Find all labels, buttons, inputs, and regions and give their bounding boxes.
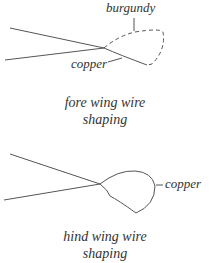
hind-wing-wire-upper: [10, 154, 100, 184]
hind-wing-caption: hind wing wire shaping: [30, 228, 180, 262]
copper-label-hind: copper: [165, 176, 201, 192]
caption-line: fore wing wire: [30, 94, 180, 111]
copper-leader-fore: [108, 58, 122, 62]
fore-wing-caption: fore wing wire shaping: [30, 94, 180, 128]
wire-diagram: [0, 0, 216, 263]
fore-wing-wire-upper: [10, 28, 104, 48]
fore-wing-copper-wire: [104, 48, 147, 65]
hind-wing-wire-lower: [4, 184, 100, 200]
copper-label-fore: copper: [71, 56, 107, 72]
caption-line: shaping: [30, 245, 180, 262]
caption-line: shaping: [30, 111, 180, 128]
caption-line: hind wing wire: [30, 228, 180, 245]
hind-wing-copper-loop: [100, 171, 155, 213]
burgundy-label: burgundy: [106, 0, 155, 16]
